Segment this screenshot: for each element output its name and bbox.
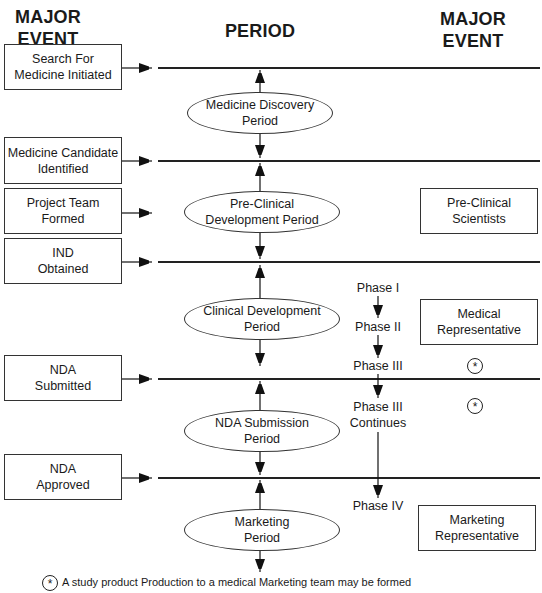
role-label: Representative — [435, 529, 519, 543]
event-box-nda-approved: NDAApproved — [4, 454, 122, 500]
period-pre-clinical-development: Pre-ClinicalDevelopment Period — [184, 191, 340, 233]
period-label: NDA Submission — [215, 416, 309, 430]
event-label: Submitted — [35, 379, 91, 393]
milestone-line-2 — [158, 160, 540, 162]
event-box-candidate-identified: Medicine CandidateIdentified — [4, 137, 122, 184]
event-label: NDA — [50, 363, 76, 377]
footnote-text: A study product Production to a medical … — [62, 576, 411, 588]
period-label: Development Period — [205, 213, 318, 227]
role-label: Representative — [437, 323, 521, 337]
period-label: Medicine Discovery — [206, 98, 314, 112]
period-label: Period — [242, 114, 278, 128]
header-right-major-event: MAJOR EVENT — [428, 8, 518, 52]
role-label: Scientists — [452, 212, 506, 226]
event-label: Medicine Initiated — [14, 68, 111, 82]
header-right-line1: MAJOR — [428, 8, 518, 30]
event-label: Formed — [41, 212, 84, 226]
phase-4: Phase IV — [333, 498, 423, 514]
period-label: Period — [244, 320, 280, 334]
period-label: Pre-Clinical — [230, 197, 294, 211]
header-right-line2: EVENT — [428, 30, 518, 52]
milestone-line-5 — [158, 477, 540, 479]
event-label: Identified — [38, 162, 89, 176]
event-label: NDA — [50, 462, 76, 476]
phase-2: Phase II — [333, 319, 423, 335]
period-clinical-development: Clinical DevelopmentPeriod — [184, 298, 340, 340]
header-left-line1: MAJOR — [4, 6, 92, 28]
role-box-medical-representative: MedicalRepresentative — [420, 299, 538, 345]
period-label: Period — [244, 531, 280, 545]
period-label: Clinical Development — [203, 304, 320, 318]
event-label: Medicine Candidate — [8, 146, 119, 160]
period-label: Marketing — [235, 515, 290, 529]
role-label: Medical — [457, 307, 500, 321]
event-box-search-initiated: Search ForMedicine Initiated — [4, 44, 122, 90]
event-label: Search For — [32, 52, 94, 66]
header-period: PERIOD — [205, 20, 315, 42]
circled-star-icon: * — [467, 398, 483, 414]
event-label: Obtained — [38, 262, 89, 276]
period-nda-submission: NDA SubmissionPeriod — [184, 410, 340, 452]
phase-label: Phase III — [353, 400, 402, 414]
event-label: Approved — [36, 478, 90, 492]
role-box-marketing-representative: MarketingRepresentative — [418, 505, 536, 551]
event-box-nda-submitted: NDASubmitted — [4, 355, 122, 401]
event-label: IND — [52, 246, 74, 260]
role-label: Marketing — [450, 513, 505, 527]
period-marketing: MarketingPeriod — [184, 509, 340, 551]
phase-label: Continues — [350, 416, 406, 430]
period-label: Period — [244, 432, 280, 446]
milestone-line-3 — [158, 261, 540, 263]
event-box-ind-obtained: INDObtained — [4, 238, 122, 284]
phase-3: Phase III — [333, 358, 423, 374]
role-label: Pre-Clinical — [447, 196, 511, 210]
event-label: Project Team — [27, 196, 100, 210]
milestone-line-1 — [158, 67, 540, 69]
circled-star-icon: * — [467, 358, 483, 374]
phase-1: Phase I — [333, 280, 423, 296]
event-box-project-team-formed: Project TeamFormed — [4, 188, 122, 234]
milestone-line-4 — [158, 378, 540, 380]
footnote-circled-star-icon: * — [42, 575, 58, 591]
period-medicine-discovery: Medicine DiscoveryPeriod — [187, 92, 333, 134]
phase-3-continues: Phase IIIContinues — [333, 399, 423, 431]
role-box-pre-clinical-scientists: Pre-ClinicalScientists — [420, 188, 538, 234]
